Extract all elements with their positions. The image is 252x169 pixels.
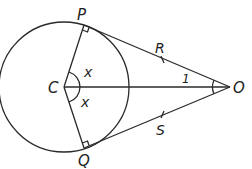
label-angle-qco: x [80, 94, 90, 110]
label-s: S [156, 122, 165, 138]
radius-cp [64, 25, 84, 87]
label-q: Q [78, 152, 90, 169]
geometry-diagram: P C Q O R S x x 1 [0, 0, 252, 169]
tick-mark-r [161, 56, 164, 63]
label-o: O [233, 79, 245, 97]
tangent-po [84, 25, 230, 87]
label-c: C [48, 79, 59, 97]
angle-arc-qco [69, 87, 80, 102]
label-angle-1: 1 [182, 72, 190, 86]
label-angle-pco: x [83, 64, 93, 80]
angle-arc-pco [69, 72, 80, 87]
label-r: R [155, 40, 165, 56]
label-p: P [77, 6, 87, 24]
tangent-qo [84, 87, 230, 148]
